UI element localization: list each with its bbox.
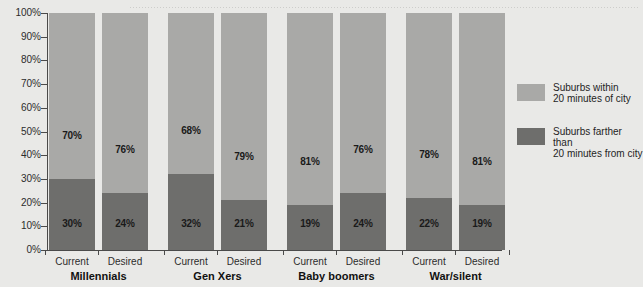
y-axis-tick-mark (41, 84, 47, 85)
y-axis-line (47, 13, 48, 251)
bar-segment-suburbs-within (340, 13, 386, 193)
y-axis-tick-mark (41, 37, 47, 38)
y-axis-tick-label-text: 80% (3, 55, 41, 65)
y-axis-tick-mark (41, 132, 47, 133)
x-axis-sub-label: Desired (212, 256, 276, 267)
y-axis-tick-label: 20% (0, 198, 41, 208)
chart-legend: Suburbs within 20 minutes of citySuburbs… (517, 82, 635, 170)
y-axis-tick-label-text: 100% (3, 8, 41, 18)
bar-stack: 81%19% (459, 13, 505, 250)
x-axis-sub-label: Desired (450, 256, 514, 267)
bar-stack: 76%24% (102, 13, 148, 250)
x-axis-tick-mark (283, 250, 284, 255)
y-axis-tick-label-text: 60% (3, 103, 41, 113)
y-axis-tick-label-text: 90% (3, 32, 41, 42)
y-axis-tick-label-text: 30% (3, 174, 41, 184)
x-axis-group-label: Millennials (34, 270, 164, 282)
bar-stack: 70%30% (49, 13, 95, 250)
x-axis-tick-mark (45, 250, 46, 255)
bar-segment-suburbs-farther (49, 179, 95, 250)
scan-artifact-line (130, 7, 640, 8)
bar-segment-suburbs-within (49, 13, 95, 179)
x-axis-sub-label: Desired (93, 256, 157, 267)
x-axis-sub-label: Desired (331, 256, 395, 267)
y-axis-tick-label: 10% (0, 221, 41, 231)
bar-segment-suburbs-within (221, 13, 267, 200)
bar-value-label-within: 76% (340, 145, 386, 155)
y-axis-tick-mark (41, 203, 47, 204)
y-axis-tick-label: 90% (0, 32, 41, 42)
y-axis-tick-label: 100% (0, 8, 41, 18)
y-axis-tick-mark (41, 155, 47, 156)
y-axis-tick-label: 30% (0, 174, 41, 184)
legend-label: Suburbs farther than 20 minutes from cit… (553, 126, 643, 159)
y-axis-tick-label-text: 40% (3, 150, 41, 160)
legend-swatch-dark (517, 128, 545, 145)
y-axis-tick-label: 70% (0, 79, 41, 89)
x-axis-tick-mark (402, 250, 403, 255)
y-axis-tick-label-text: 50% (3, 127, 41, 137)
bar-value-label-farther: 32% (168, 219, 214, 229)
x-axis-tick-mark (98, 250, 99, 255)
y-axis-tick-mark (41, 250, 47, 251)
y-axis-tick-mark (41, 226, 47, 227)
x-axis-line (47, 250, 502, 251)
bar-value-label-farther: 19% (459, 219, 505, 229)
bar-stack: 68%32% (168, 13, 214, 250)
bar-value-label-within: 79% (221, 152, 267, 162)
bar-value-label-within: 81% (287, 157, 333, 167)
bar-value-label-farther: 24% (340, 219, 386, 229)
bar-value-label-within: 70% (49, 131, 95, 141)
bar-segment-suburbs-within (287, 13, 333, 205)
y-axis-tick-label: 40% (0, 150, 41, 160)
bar-value-label-farther: 19% (287, 219, 333, 229)
y-axis-tick-mark (41, 13, 47, 14)
y-axis-tick-label: 60% (0, 103, 41, 113)
bar-segment-suburbs-within (406, 13, 452, 198)
y-axis-tick-label-text: 70% (3, 79, 41, 89)
x-axis-tick-mark (217, 250, 218, 255)
bar-value-label-within: 76% (102, 145, 148, 155)
x-axis-tick-mark (509, 250, 510, 255)
legend-item: Suburbs farther than 20 minutes from cit… (517, 126, 635, 160)
legend-label: Suburbs within 20 minutes of city (553, 82, 643, 104)
bar-segment-suburbs-within (102, 13, 148, 193)
bar-value-label-farther: 24% (102, 219, 148, 229)
y-axis-tick-mark (41, 108, 47, 109)
y-axis-tick-label: 50% (0, 127, 41, 137)
y-axis-tick-label-text: 0% (3, 245, 41, 255)
bar-segment-suburbs-within (168, 13, 214, 174)
bar-stack: 76%24% (340, 13, 386, 250)
bar-value-label-within: 78% (406, 150, 452, 160)
bar-value-label-farther: 30% (49, 219, 95, 229)
bar-segment-suburbs-within (459, 13, 505, 205)
legend-item: Suburbs within 20 minutes of city (517, 82, 635, 116)
bar-segment-suburbs-farther (168, 174, 214, 250)
bar-stack: 79%21% (221, 13, 267, 250)
x-axis-tick-mark (336, 250, 337, 255)
y-axis-tick-label-text: 20% (3, 198, 41, 208)
bar-value-label-farther: 22% (406, 219, 452, 229)
y-axis-tick-mark (41, 179, 47, 180)
x-axis-group-label: War/silent (391, 270, 521, 282)
x-axis-group-label: Baby boomers (272, 270, 402, 282)
bar-value-label-within: 81% (459, 157, 505, 167)
x-axis-tick-mark (455, 250, 456, 255)
y-axis-tick-label: 0% (0, 245, 41, 255)
bar-stack: 78%22% (406, 13, 452, 250)
bar-stack: 81%19% (287, 13, 333, 250)
y-axis-tick-label-text: 10% (3, 221, 41, 231)
y-axis-tick-mark (41, 60, 47, 61)
x-axis-group-label: Gen Xers (153, 270, 283, 282)
legend-swatch-light (517, 84, 545, 101)
bar-value-label-within: 68% (168, 126, 214, 136)
x-axis-tick-mark (164, 250, 165, 255)
bar-value-label-farther: 21% (221, 219, 267, 229)
y-axis-tick-label: 80% (0, 55, 41, 65)
